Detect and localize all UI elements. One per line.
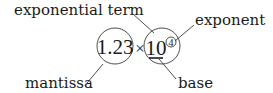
label-base: base xyxy=(178,74,213,92)
mantissa-value: 1.23 xyxy=(97,35,134,59)
label-exponential-term: exponential term xyxy=(14,1,144,19)
base-value: 10 xyxy=(146,36,167,60)
scientific-notation-diagram: exponential term exponent 1.23 × 10 4 ma… xyxy=(0,0,273,93)
exponent-value: 4 xyxy=(169,37,174,48)
leader-line-base xyxy=(159,59,176,79)
label-mantissa: mantissa xyxy=(25,74,93,92)
label-exponent: exponent xyxy=(195,11,265,29)
leader-line-exponent xyxy=(175,25,194,41)
times-operator: × xyxy=(135,39,145,58)
